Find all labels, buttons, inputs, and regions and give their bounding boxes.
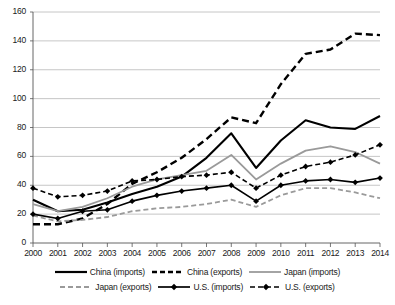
legend-swatch-icon [60, 282, 92, 292]
x-tick-label: 2003 [94, 248, 120, 258]
legend-label: China (exports) [187, 267, 242, 277]
legend-swatch-icon [152, 267, 184, 277]
data-point-marker [303, 164, 309, 170]
legend-swatch-icon [55, 267, 87, 277]
x-tick-label: 2007 [194, 248, 220, 258]
y-tick-label: 140 [2, 35, 26, 45]
legend-row: Japan (exports)U.S. (imports)U.S. (expor… [0, 279, 395, 294]
y-tick-label: 160 [2, 6, 26, 16]
legend-item[interactable]: China (exports) [152, 267, 242, 277]
data-point-marker [228, 169, 234, 175]
y-tick-label: 80 [2, 122, 26, 132]
data-point-marker [278, 172, 284, 178]
y-tick-label: 120 [2, 64, 26, 74]
x-tick-label: 2005 [144, 248, 170, 258]
x-axis-ticks [33, 243, 380, 247]
data-point-marker [377, 175, 383, 181]
legend-item[interactable]: U.S. (imports) [158, 282, 243, 292]
x-tick-label: 2008 [218, 248, 244, 258]
legend-item[interactable]: China (imports) [55, 267, 145, 277]
data-point-marker [129, 198, 135, 204]
data-point-marker [154, 177, 160, 183]
y-tick-label: 100 [2, 93, 26, 103]
x-tick-label: 2010 [268, 248, 294, 258]
data-point-marker [204, 185, 210, 191]
legend-label: U.S. (imports) [193, 282, 243, 292]
x-tick-label: 2004 [119, 248, 145, 258]
x-tick-label: 2014 [367, 248, 393, 258]
series-line [33, 188, 380, 221]
line-chart: 020406080100120140160 200020012002200320… [0, 0, 395, 305]
x-tick-label: 2013 [342, 248, 368, 258]
data-point-marker [30, 185, 36, 191]
legend-swatch-icon [249, 267, 281, 277]
x-tick-label: 2006 [169, 248, 195, 258]
y-tick-label: 60 [2, 150, 26, 160]
x-tick-label: 2012 [317, 248, 343, 258]
data-point-marker [80, 192, 86, 198]
x-tick-label: 2011 [293, 248, 319, 258]
data-point-marker [154, 192, 160, 198]
x-tick-label: 2000 [20, 248, 46, 258]
chart-legend: China (imports)China (exports)Japan (imp… [0, 264, 395, 294]
legend-label: China (imports) [90, 267, 145, 277]
data-point-marker [328, 177, 334, 183]
legend-item[interactable]: U.S. (exports) [250, 282, 335, 292]
legend-row: China (imports)China (exports)Japan (imp… [0, 264, 395, 279]
y-tick-label: 20 [2, 208, 26, 218]
data-point-marker [352, 179, 358, 185]
legend-swatch-icon [158, 282, 190, 292]
data-point-marker [377, 142, 383, 148]
data-point-marker [253, 185, 259, 191]
data-point-marker [55, 194, 61, 200]
x-tick-label: 2001 [45, 248, 71, 258]
data-point-marker [104, 188, 110, 194]
data-point-marker [204, 172, 210, 178]
data-point-marker [303, 178, 309, 184]
y-tick-label: 0 [2, 237, 26, 247]
data-point-marker [104, 207, 110, 213]
plot-area [0, 0, 395, 305]
series-line [33, 116, 380, 211]
legend-label: U.S. (exports) [285, 282, 335, 292]
legend-swatch-icon [250, 282, 282, 292]
y-tick-label: 40 [2, 179, 26, 189]
legend-label: Japan (imports) [284, 267, 340, 277]
legend-item[interactable]: Japan (imports) [249, 267, 340, 277]
legend-item[interactable]: Japan (exports) [60, 282, 151, 292]
x-tick-label: 2002 [70, 248, 96, 258]
legend-label: Japan (exports) [95, 282, 151, 292]
series-line [33, 178, 380, 218]
series-lines [30, 34, 383, 225]
data-point-marker [179, 188, 185, 194]
x-tick-label: 2009 [243, 248, 269, 258]
data-point-marker [328, 159, 334, 165]
